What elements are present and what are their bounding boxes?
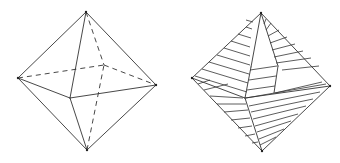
outline-edge — [261, 13, 278, 66]
solid-edge — [18, 78, 87, 150]
outline-edge — [192, 78, 262, 151]
hidden-edge — [18, 65, 104, 78]
solid-edge — [86, 12, 156, 85]
octahedron-figures — [0, 0, 340, 163]
solid-edge — [18, 78, 70, 98]
vertex-bottom — [86, 149, 88, 151]
octahedron-diagram — [0, 0, 340, 163]
solid-edge — [70, 98, 87, 150]
octahedron-hatched — [191, 12, 331, 152]
outline-edge — [245, 86, 330, 98]
hidden-edge — [104, 65, 156, 85]
solid-edge — [87, 85, 156, 150]
outline-edge — [274, 66, 278, 93]
outline-edge — [192, 78, 245, 98]
outline-edge — [262, 86, 330, 151]
hidden-edge — [86, 12, 104, 65]
hidden-edge — [87, 65, 104, 150]
vertex-left — [17, 77, 19, 79]
octahedron-wireframe — [17, 11, 157, 151]
outline-edge — [261, 13, 330, 86]
vertex-top — [85, 11, 87, 13]
vertex-right — [329, 85, 331, 87]
vertex-top — [260, 12, 262, 14]
vertex-right — [155, 84, 157, 86]
vertex-left — [191, 77, 193, 79]
vertex-bottom — [261, 150, 263, 152]
hatching-lines — [195, 19, 326, 145]
solid-edge — [70, 85, 156, 98]
